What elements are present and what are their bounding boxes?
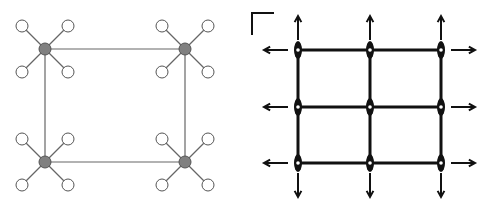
- leaf-node: [156, 179, 168, 191]
- grid-node-center: [439, 105, 443, 109]
- leaf-node: [16, 133, 28, 145]
- arrow-icon: [367, 173, 374, 197]
- grid-node-center: [368, 161, 372, 165]
- grid-node-center: [439, 161, 443, 165]
- grid-mesh-diagram: [252, 13, 475, 197]
- arrow-icon: [295, 16, 302, 40]
- leaf-node: [202, 20, 214, 32]
- arrow-icon: [451, 104, 475, 111]
- grid-node-center: [296, 105, 300, 109]
- hub-node: [39, 43, 51, 55]
- grid-node-center: [368, 48, 372, 52]
- leaf-node: [62, 66, 74, 78]
- grid-node-center: [296, 48, 300, 52]
- leaf-node: [202, 133, 214, 145]
- leaf-node: [62, 20, 74, 32]
- leaf-node: [156, 133, 168, 145]
- hub-node: [179, 156, 191, 168]
- arrow-icon: [264, 104, 288, 111]
- grid-node-center: [439, 48, 443, 52]
- leaf-node: [202, 66, 214, 78]
- arrow-icon: [367, 16, 374, 40]
- leaf-node: [156, 66, 168, 78]
- arrow-icon: [451, 160, 475, 167]
- arrow-icon: [295, 173, 302, 197]
- grid-node-center: [368, 105, 372, 109]
- arrow-icon: [451, 47, 475, 54]
- leaf-node: [62, 133, 74, 145]
- arrow-icon: [438, 173, 445, 197]
- arrow-icon: [438, 16, 445, 40]
- leaf-node: [16, 66, 28, 78]
- diagram-canvas: [0, 0, 491, 213]
- star-network-diagram: [16, 20, 214, 191]
- hub-node: [179, 43, 191, 55]
- leaf-node: [156, 20, 168, 32]
- leaf-node: [202, 179, 214, 191]
- arrow-icon: [264, 160, 288, 167]
- grid-node-center: [296, 161, 300, 165]
- leaf-node: [16, 20, 28, 32]
- arrow-icon: [264, 47, 288, 54]
- leaf-node: [62, 179, 74, 191]
- corner-mark: [252, 13, 274, 35]
- hub-node: [39, 156, 51, 168]
- leaf-node: [16, 179, 28, 191]
